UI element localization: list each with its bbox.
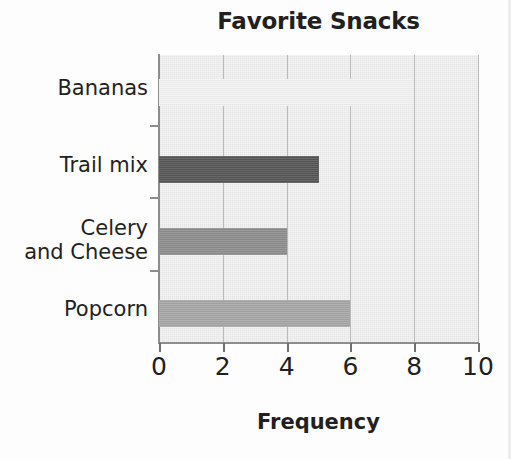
- page-right-margin: [511, 0, 521, 459]
- bar-texture: [159, 228, 287, 255]
- x-tick-6: [350, 343, 352, 352]
- bar-texture: [159, 156, 319, 183]
- x-tick-10: [478, 343, 480, 352]
- category-label-celery: Celery and Cheese: [7, 216, 157, 264]
- x-tick-4: [287, 343, 289, 352]
- x-axis-title: Frequency: [159, 410, 478, 434]
- x-tick-8: [414, 343, 416, 352]
- bar-popcorn: [159, 300, 350, 327]
- y-tick-2: [150, 197, 159, 199]
- x-tick-label-6: 6: [342, 352, 358, 382]
- x-tick-label-8: 8: [406, 352, 422, 382]
- x-tick-0: [159, 343, 161, 352]
- x-tick-label-4: 4: [279, 352, 295, 382]
- x-tick-label-2: 2: [215, 352, 231, 382]
- bar-celery-and-cheese: [159, 228, 287, 255]
- category-label-trail-mix: Trail mix: [7, 153, 157, 177]
- category-label-popcorn: Popcorn: [7, 297, 157, 321]
- x-tick-label-0: 0: [151, 352, 167, 382]
- x-axis-line: [158, 342, 479, 344]
- x-tick-label-10: 10: [462, 352, 494, 382]
- chart-title: Favorite Snacks: [159, 8, 478, 34]
- x-tick-2: [223, 343, 225, 352]
- category-label-bananas: Bananas: [7, 76, 157, 100]
- chart-page: Favorite Snacks BananasTrail mixCelery a…: [0, 0, 521, 459]
- bar-trail-mix: [159, 156, 319, 183]
- bar-bananas: [159, 79, 414, 106]
- gridline-8: [414, 55, 415, 342]
- y-tick-1: [150, 125, 159, 127]
- bar-texture: [159, 79, 414, 106]
- bar-texture: [159, 300, 350, 327]
- y-tick-3: [150, 270, 159, 272]
- gridline-10: [478, 55, 479, 342]
